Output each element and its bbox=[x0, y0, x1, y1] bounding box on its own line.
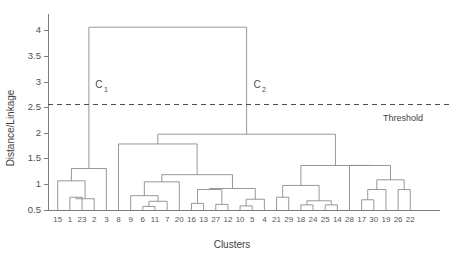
cluster-annotation-subscript: 2 bbox=[262, 86, 266, 93]
leaf-label: 24 bbox=[309, 215, 318, 224]
leaf-label: 20 bbox=[175, 215, 184, 224]
x-axis-title: Clusters bbox=[214, 239, 251, 250]
leaf-label: 5 bbox=[250, 215, 255, 224]
y-tick-label: 2.5 bbox=[28, 101, 41, 112]
leaf-label: 8 bbox=[116, 215, 121, 224]
leaf-label: 16 bbox=[187, 215, 196, 224]
leaf-label: 11 bbox=[151, 215, 160, 224]
leaf-label: 13 bbox=[199, 215, 208, 224]
leaf-label: 29 bbox=[284, 215, 293, 224]
leaf-label: 27 bbox=[211, 215, 220, 224]
dendrogram-plot: 0.511.522.533.54 Threshold 1512323896117… bbox=[0, 0, 455, 258]
leaf-label: 25 bbox=[321, 215, 330, 224]
y-tick-label: 4 bbox=[36, 24, 41, 35]
cluster-annotation-subscript: 1 bbox=[104, 86, 108, 93]
leaf-label: 10 bbox=[236, 215, 245, 224]
threshold-label: Threshold bbox=[383, 113, 423, 123]
leaf-label: 30 bbox=[369, 215, 378, 224]
leaf-label: 12 bbox=[223, 215, 232, 224]
leaf-label: 28 bbox=[345, 215, 354, 224]
y-axis-title: Distance/Linkage bbox=[5, 89, 16, 166]
y-tick-label: 3.5 bbox=[28, 50, 41, 61]
y-tick-label: 2 bbox=[36, 127, 41, 138]
leaf-label: 17 bbox=[357, 215, 366, 224]
leaf-label: 2 bbox=[92, 215, 97, 224]
y-tick-label: 1 bbox=[36, 178, 41, 189]
leaf-label: 23 bbox=[78, 215, 87, 224]
leaf-label: 26 bbox=[394, 215, 403, 224]
leaf-label: 18 bbox=[296, 215, 305, 224]
leaf-label: 15 bbox=[53, 215, 62, 224]
leaf-label: 22 bbox=[406, 215, 415, 224]
leaf-label: 1 bbox=[68, 215, 73, 224]
leaf-label: 14 bbox=[333, 215, 342, 224]
dendrogram-figure: 0.511.522.533.54 Threshold 1512323896117… bbox=[0, 0, 455, 258]
leaf-label: 21 bbox=[272, 215, 281, 224]
y-tick-label: 1.5 bbox=[28, 152, 41, 163]
y-tick-label: 0.5 bbox=[28, 204, 41, 215]
leaf-label: 7 bbox=[165, 215, 170, 224]
leaf-label: 4 bbox=[262, 215, 267, 224]
y-tick-label: 3 bbox=[36, 76, 41, 87]
leaf-label: 6 bbox=[141, 215, 146, 224]
leaf-label: 19 bbox=[382, 215, 391, 224]
cluster-annotation-base: C bbox=[253, 79, 260, 90]
leaf-label: 3 bbox=[104, 215, 109, 224]
leaf-label: 9 bbox=[128, 215, 133, 224]
cluster-annotation-base: C bbox=[95, 79, 102, 90]
